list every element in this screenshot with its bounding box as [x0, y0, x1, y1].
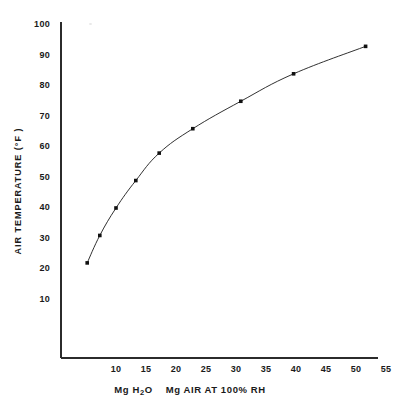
x-axis-title-suffix: Mg AIR AT 100% RH [166, 384, 266, 395]
data-point-marker [292, 72, 296, 76]
x-axis-title-middle: O [145, 384, 153, 395]
y-tick-label: 70 [22, 111, 50, 121]
data-point-marker [98, 234, 102, 238]
x-tick-label: 45 [313, 364, 339, 374]
x-tick-label: 40 [283, 364, 309, 374]
x-tick-label: 15 [133, 364, 159, 374]
y-axis-title: AIR TEMPERATURE (°F ) [13, 111, 23, 271]
paper-speck-artifact [89, 23, 92, 25]
x-axis-title-subscript: 2 [140, 388, 145, 397]
x-tick-label: 20 [163, 364, 189, 374]
data-point-marker [191, 127, 195, 131]
y-tick-label: 30 [22, 233, 50, 243]
x-tick-label: 50 [343, 364, 369, 374]
data-point-marker [134, 179, 138, 183]
y-tick-label: 90 [22, 50, 50, 60]
y-tick-label: 10 [22, 294, 50, 304]
y-tick-label: 60 [22, 141, 50, 151]
x-tick-label: 55 [373, 364, 399, 374]
y-tick-label: 20 [22, 263, 50, 273]
x-tick-label: 35 [253, 364, 279, 374]
x-axis-title-prefix: Mg H [114, 384, 140, 395]
x-tick-label: 30 [223, 364, 249, 374]
y-tick-label: 50 [22, 172, 50, 182]
data-point-marker [157, 151, 161, 155]
data-series [85, 45, 367, 265]
y-tick-label: 80 [22, 80, 50, 90]
data-point-marker [85, 261, 89, 265]
y-tick-label: 40 [22, 202, 50, 212]
chart-axes [61, 22, 378, 358]
x-tick-label: 10 [103, 364, 129, 374]
chart-figure: 102030405060708090100 101520253035404550… [0, 0, 404, 415]
data-point-marker [114, 206, 118, 210]
y-tick-label: 100 [22, 19, 50, 29]
data-point-marker [364, 45, 368, 49]
x-tick-label: 25 [193, 364, 219, 374]
x-axis-title: Mg H2O Mg AIR AT 100% RH [60, 384, 320, 395]
series-line [87, 46, 365, 263]
plot-area [0, 0, 404, 415]
data-point-marker [239, 99, 243, 103]
